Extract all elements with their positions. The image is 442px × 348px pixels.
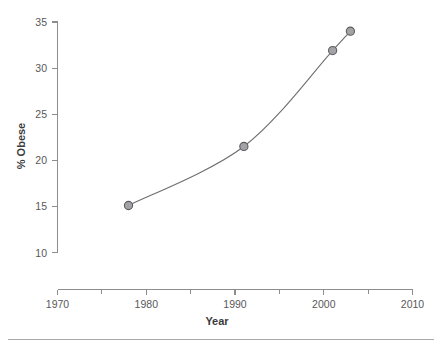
y-axis-title: % Obese [15,123,27,169]
x-tick-label-1980: 1980 [135,298,159,310]
chart-figure: 35 30 25 20 15 10 % Obese 1970 198 [0,0,442,348]
x-axis-group: 1970 1980 1990 2000 2010 Year [46,290,425,328]
y-tick-label-25: 25 [35,108,47,120]
data-point-1991[interactable] [240,142,248,150]
x-tick-label-1970: 1970 [46,298,70,310]
data-series-obese [124,27,354,209]
data-point-1978[interactable] [124,201,132,209]
y-tick-label-30: 30 [35,62,47,74]
y-tick-label-20: 20 [35,154,47,166]
x-tick-label-2010: 2010 [401,298,425,310]
x-tick-label-2000: 2000 [312,298,336,310]
y-tick-label-35: 35 [35,16,47,28]
x-tick-label-1990: 1990 [223,298,247,310]
y-tick-label-10: 10 [35,247,47,259]
data-point-2001[interactable] [329,46,337,54]
data-point-2003[interactable] [346,27,354,35]
line-chart-canvas: 35 30 25 20 15 10 % Obese 1970 198 [0,0,442,348]
x-axis-title: Year [205,315,229,327]
series-line-% Obese [129,31,351,205]
y-tick-label-15: 15 [35,200,47,212]
y-axis-group: 35 30 25 20 15 10 % Obese [15,16,58,259]
